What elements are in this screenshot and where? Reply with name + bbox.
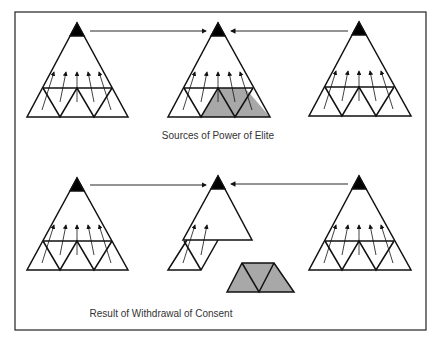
pyramid-middle-top: [168, 23, 270, 117]
pyramid-middle-bottom: [168, 176, 252, 270]
pyramid-left-top: [27, 23, 128, 117]
caption-top: Sources of Power of Elite: [118, 130, 318, 141]
pyramid-left-bottom: [27, 178, 128, 270]
withdrawn-block: [227, 263, 294, 292]
pyramid-right-bottom: [309, 176, 411, 270]
caption-bottom: Result of Withdrawal of Consent: [61, 308, 261, 319]
pyramid-right-top: [309, 22, 411, 116]
power-diagram: [0, 0, 437, 340]
frame: [15, 12, 426, 330]
